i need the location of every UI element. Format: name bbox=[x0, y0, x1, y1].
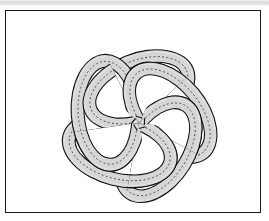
page-canvas bbox=[0, 0, 269, 221]
figure-frame bbox=[5, 10, 261, 213]
link-diagram-svg bbox=[6, 11, 260, 212]
scan-top-band-edge bbox=[0, 5, 269, 6]
